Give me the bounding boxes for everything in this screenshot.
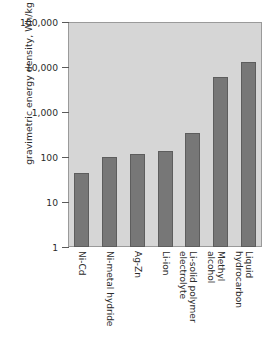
y-tick-mark [62, 202, 69, 203]
y-tick-mark [62, 247, 69, 248]
x-axis-label-line: hydrocarbon [234, 251, 244, 337]
y-tick-label: 100,000 [0, 17, 58, 28]
y-tick-label: 10,000 [0, 62, 58, 73]
y-tick-mark [62, 67, 69, 68]
x-axis-label-line: alcohol [206, 251, 216, 337]
x-axis-label-line: Ni-Cd [77, 251, 87, 337]
x-axis-label: Liquidhydrocarbon [234, 251, 253, 337]
bar [241, 62, 256, 247]
x-axis-label: Li-solid polymerelectrolyte [178, 251, 197, 337]
x-axis-label: Ni-metal hydride [105, 251, 115, 337]
x-axis-label: Methylalcohol [206, 251, 225, 337]
bar [213, 77, 228, 247]
x-axis-label: Ag-Zn [132, 251, 142, 337]
x-axis-label-line: Ag-Zn [132, 251, 142, 337]
x-axis-label-line: Li-solid polymer [188, 251, 198, 337]
bar-chart: gravimetric energy density, Wh/kg 100,00… [0, 0, 273, 337]
y-tick-mark [62, 22, 69, 23]
bar [158, 151, 173, 247]
bar [130, 154, 145, 247]
y-tick-label: 1 [0, 242, 58, 253]
bar [102, 157, 117, 247]
x-axis-label-line: Liquid [243, 251, 253, 337]
x-axis-label: Li-ion [160, 251, 170, 337]
y-tick-mark [62, 157, 69, 158]
y-tick-label: 1,000 [0, 107, 58, 118]
y-tick-label: 100 [0, 152, 58, 163]
x-axis-label-line: electrolyte [178, 251, 188, 337]
x-axis-label-line: Ni-metal hydride [105, 251, 115, 337]
x-axis-label-line: Li-ion [160, 251, 170, 337]
bar [185, 133, 200, 247]
y-tick-label: 10 [0, 197, 58, 208]
x-axis-label-line: Methyl [215, 251, 225, 337]
x-axis-label: Ni-Cd [77, 251, 87, 337]
bar [74, 173, 89, 247]
y-tick-mark [62, 112, 69, 113]
